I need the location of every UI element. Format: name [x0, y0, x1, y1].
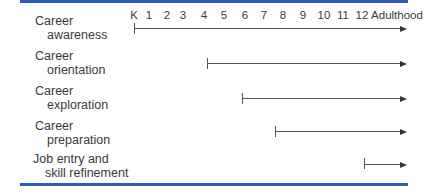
tick-10: 10 [318, 9, 331, 21]
stage-label-awareness: Career awareness [35, 14, 107, 42]
tick-9: 9 [300, 9, 306, 21]
stage-label-preparation: Career preparation [35, 119, 110, 147]
stage-label-line2: exploration [35, 98, 108, 112]
stage-label-line1: Career [35, 49, 73, 63]
arrow-icon [400, 26, 407, 32]
tick-adulthood: Adulthood [371, 9, 423, 21]
stage-label-exploration: Career exploration [35, 84, 108, 112]
stage-label-line2: awareness [35, 28, 107, 42]
stage-label-line1: Career [35, 14, 73, 28]
stage-label-line2: skill refinement [33, 166, 128, 180]
timeline-bar-orientation [207, 63, 402, 64]
timeline-bar-job-entry [364, 164, 402, 165]
timeline-bar-preparation [275, 131, 402, 132]
tick-5: 5 [221, 9, 227, 21]
stage-label-job-entry: Job entry and skill refinement [33, 152, 128, 180]
tick-3: 3 [180, 9, 186, 21]
tick-k: K [130, 9, 138, 21]
tick-2: 2 [164, 9, 170, 21]
stage-label-line1: Career [35, 119, 73, 133]
tick-11: 11 [337, 9, 349, 21]
arrow-icon [400, 96, 407, 102]
stage-label-line2: orientation [35, 63, 105, 77]
arrow-icon [400, 129, 407, 135]
stage-label-line1: Job entry and [33, 152, 109, 166]
tick-6: 6 [242, 9, 248, 21]
timeline-bar-exploration [242, 98, 402, 99]
tick-8: 8 [280, 9, 286, 21]
arrow-icon [400, 162, 407, 168]
tick-7: 7 [261, 9, 267, 21]
arrow-icon [400, 61, 407, 67]
stage-label-orientation: Career orientation [35, 49, 105, 77]
top-rule [20, 0, 408, 3]
tick-4: 4 [201, 9, 207, 21]
timeline-bar-awareness [134, 28, 402, 29]
stage-label-line2: preparation [35, 133, 110, 147]
bottom-rule [20, 183, 408, 186]
stage-label-line1: Career [35, 84, 73, 98]
tick-12: 12 [356, 9, 369, 21]
tick-1: 1 [146, 9, 152, 21]
